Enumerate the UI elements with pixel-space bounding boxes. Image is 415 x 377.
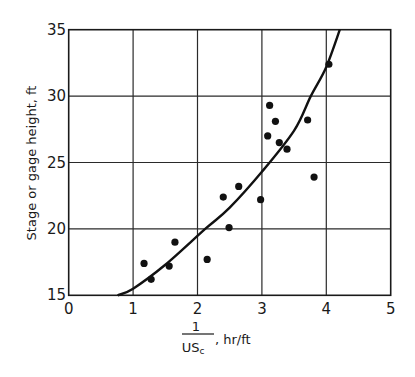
- x-label-unit: , hr/ft: [215, 332, 251, 347]
- x-tick-label: 4: [322, 300, 332, 318]
- data-points: [140, 61, 332, 283]
- data-point: [325, 61, 332, 68]
- y-tick-label: 35: [47, 21, 66, 39]
- data-point: [272, 118, 279, 125]
- data-point: [257, 196, 264, 203]
- data-point: [148, 276, 155, 283]
- data-point: [204, 256, 211, 263]
- x-tick-label: 5: [386, 300, 396, 318]
- y-tick-label: 30: [47, 87, 66, 105]
- y-tick-label: 20: [47, 220, 66, 238]
- y-axis-ticks: 1520253035: [47, 21, 66, 305]
- data-point: [225, 224, 232, 231]
- data-point: [171, 239, 178, 246]
- x-tick-label: 1: [128, 300, 138, 318]
- data-point: [140, 260, 147, 267]
- x-axis-label: 1 USc , hr/ft: [182, 319, 251, 356]
- data-point: [276, 139, 283, 146]
- data-point: [166, 262, 173, 269]
- data-point: [235, 183, 242, 190]
- y-axis-label: Stage or gage height, ft: [24, 86, 39, 241]
- y-tick-label: 15: [47, 286, 66, 304]
- x-label-numerator: 1: [192, 319, 200, 334]
- scatter-chart: 012345 1520253035 1 USc , hr/ft Stage or…: [0, 0, 415, 377]
- data-point: [304, 116, 311, 123]
- y-tick-label: 25: [47, 154, 66, 172]
- data-point: [310, 174, 317, 181]
- x-tick-label: 3: [257, 300, 267, 318]
- data-point: [283, 146, 290, 153]
- x-axis-ticks: 012345: [64, 300, 396, 318]
- data-point: [264, 132, 271, 139]
- grid-lines: [69, 30, 391, 296]
- data-point: [220, 193, 227, 200]
- x-label-denominator: USc: [182, 340, 205, 356]
- data-point: [266, 102, 273, 109]
- x-tick-label: 2: [193, 300, 203, 318]
